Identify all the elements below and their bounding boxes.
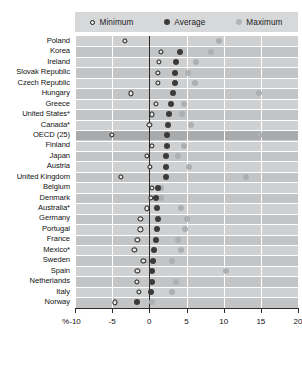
- category-label: Netherlands: [0, 276, 74, 286]
- maximum-point: [208, 49, 214, 55]
- axis-tick: [112, 308, 113, 313]
- average-point: [134, 299, 140, 305]
- category-label: Czech Republic: [0, 78, 74, 88]
- average-point: [150, 258, 156, 264]
- category-label: Norway: [0, 297, 74, 307]
- category-label: Portugal: [0, 224, 74, 234]
- category-label: United Kingdom: [0, 172, 74, 182]
- category-label: Japan: [0, 151, 74, 161]
- category-label: Austria: [0, 161, 74, 171]
- average-point: [153, 237, 159, 243]
- maximum-point: [169, 289, 175, 295]
- average-point: [172, 70, 178, 76]
- average-point: [164, 143, 170, 149]
- gridline: [261, 36, 262, 308]
- average-point: [155, 185, 161, 191]
- maximum-point: [192, 80, 198, 86]
- average-point: [166, 111, 172, 117]
- maximum-point: [184, 216, 190, 222]
- category-label: Canada*: [0, 120, 74, 130]
- maximum-point: [169, 258, 175, 264]
- maximum-point: [178, 205, 184, 211]
- category-label: Ireland: [0, 57, 74, 67]
- zero-line: [149, 36, 150, 308]
- maximum-point: [158, 195, 164, 201]
- category-label: United States*: [0, 109, 74, 119]
- open-circle-icon: [90, 20, 95, 25]
- gridline: [75, 36, 76, 308]
- legend-item-maximum: Maximum: [236, 18, 282, 27]
- maximum-point: [178, 247, 184, 253]
- maximum-point: [181, 143, 187, 149]
- category-axis-labels: PolandKoreaIrelandSlovak RepublicCzech R…: [0, 36, 74, 307]
- axis-tick-label: -10: [69, 317, 81, 326]
- plot-panel: [75, 36, 298, 308]
- filled-circle-dark-icon: [164, 19, 170, 25]
- gridline: [112, 36, 113, 308]
- maximum-point: [179, 111, 185, 117]
- average-point: [163, 153, 169, 159]
- plot-area: PolandKoreaIrelandSlovak RepublicCzech R…: [0, 36, 302, 367]
- category-label: Greece: [0, 99, 74, 109]
- gridline: [187, 36, 188, 308]
- maximum-point: [243, 174, 249, 180]
- maximum-point: [193, 59, 199, 65]
- axis-tick: [298, 308, 299, 313]
- gridline: [298, 36, 299, 308]
- gridline: [224, 36, 225, 308]
- maximum-point: [149, 299, 155, 305]
- average-point: [163, 174, 169, 180]
- average-point: [170, 90, 176, 96]
- maximum-point: [181, 101, 187, 107]
- category-label: Italy: [0, 287, 74, 297]
- average-point: [165, 122, 171, 128]
- maximum-point: [185, 70, 191, 76]
- average-point: [177, 49, 183, 55]
- category-label: Hungary: [0, 88, 74, 98]
- category-label: Korea: [0, 46, 74, 56]
- maximum-point: [216, 38, 222, 44]
- maximum-point: [223, 268, 229, 274]
- legend-item-average: Average: [164, 18, 205, 27]
- axis-tick-label: 20: [294, 317, 302, 326]
- chart-legend: Minimum Average Maximum: [75, 12, 298, 32]
- axis-unit-label: %: [62, 317, 69, 326]
- maximum-point: [188, 122, 194, 128]
- average-point: [149, 279, 155, 285]
- category-label: Spain: [0, 266, 74, 276]
- legend-label-maximum: Maximum: [246, 18, 282, 27]
- category-label: Finland: [0, 140, 74, 150]
- value-axis-tick-labels: % -10-505101520: [0, 317, 302, 331]
- average-point: [149, 268, 155, 274]
- average-point: [168, 101, 174, 107]
- category-label: Denmark: [0, 193, 74, 203]
- average-point: [164, 132, 170, 138]
- maximum-point: [186, 164, 192, 170]
- maximum-point: [175, 153, 181, 159]
- legend-label-minimum: Minimum: [99, 18, 133, 27]
- axis-tick: [149, 308, 150, 313]
- axis-tick-label: 5: [184, 317, 188, 326]
- category-label: Poland: [0, 36, 74, 46]
- average-point: [155, 216, 161, 222]
- category-label: Slovak Republic: [0, 67, 74, 77]
- axis-tick-label: 10: [219, 317, 228, 326]
- filled-circle-light-icon: [236, 19, 242, 25]
- axis-tick: [224, 308, 225, 313]
- axis-tick-label: 15: [256, 317, 265, 326]
- average-point: [151, 247, 157, 253]
- category-label: Mexico*: [0, 245, 74, 255]
- category-label: Germany: [0, 213, 74, 223]
- chart-figure: Minimum Average Maximum PolandKoreaIrela…: [0, 0, 302, 367]
- average-point: [172, 80, 178, 86]
- axis-tick: [75, 308, 76, 313]
- average-point: [154, 205, 160, 211]
- average-point: [163, 164, 169, 170]
- average-point: [154, 226, 160, 232]
- average-point: [148, 289, 154, 295]
- average-point: [153, 195, 159, 201]
- axis-tick: [187, 308, 188, 313]
- category-label: OECD (25): [0, 130, 74, 140]
- legend-label-average: Average: [174, 18, 205, 27]
- maximum-point: [182, 226, 188, 232]
